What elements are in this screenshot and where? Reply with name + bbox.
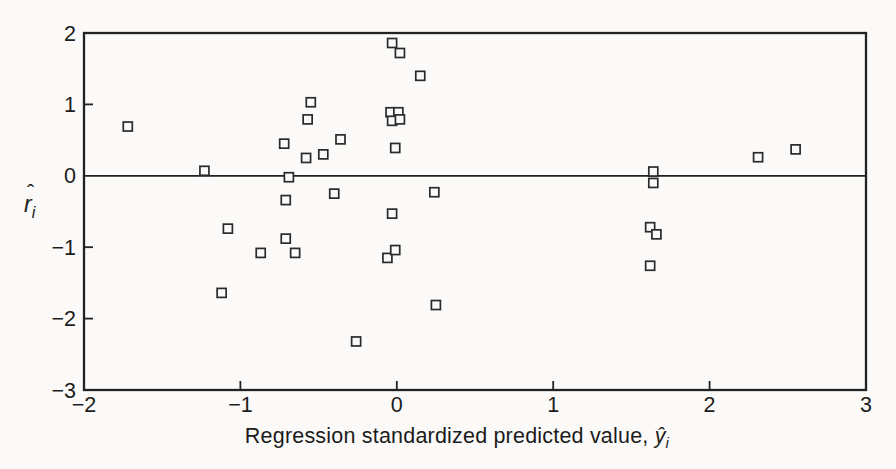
x-tick-label: 3: [860, 393, 872, 417]
plot-canvas: −2−10123210−1−2−3: [0, 0, 896, 469]
data-point-marker: [330, 189, 339, 198]
data-point-marker: [319, 150, 328, 159]
data-point-marker: [256, 248, 265, 257]
y-axis-label: ˆri: [24, 191, 35, 222]
hat-accent: ˆ: [27, 180, 34, 206]
data-point-marker: [649, 167, 658, 176]
x-axis-label-text: Regression standardized predicted value,: [245, 424, 655, 448]
x-tick-label: 1: [547, 393, 559, 417]
data-point-marker: [649, 178, 658, 187]
data-point-marker: [291, 248, 300, 257]
residual-scatter-plot-figure: −2−10123210−1−2−3 ˆri Regression standar…: [0, 0, 896, 469]
data-point-marker: [430, 188, 439, 197]
data-point-marker: [646, 261, 655, 270]
data-point-marker: [416, 71, 425, 80]
y-tick-label: 1: [64, 93, 76, 117]
y-tick-label: −3: [51, 379, 76, 403]
data-point-marker: [280, 139, 289, 148]
x-tick-label: 2: [704, 393, 716, 417]
data-point-marker: [754, 153, 763, 162]
data-point-marker: [123, 122, 132, 131]
y-axis-symbol: ˆri: [24, 191, 35, 222]
data-point-marker: [391, 143, 400, 152]
data-point-marker: [391, 246, 400, 255]
y-tick-label: −1: [51, 236, 76, 260]
data-point-marker: [395, 48, 404, 57]
data-point-marker: [431, 301, 440, 310]
data-point-marker: [281, 234, 290, 243]
data-point-marker: [303, 115, 312, 124]
y-tick-label: 0: [64, 164, 76, 188]
data-point-marker: [223, 224, 232, 233]
y-tick-label: 2: [64, 22, 76, 46]
data-point-marker: [200, 166, 209, 175]
data-point-marker: [352, 337, 361, 346]
x-tick-label: −1: [228, 393, 253, 417]
data-point-marker: [284, 173, 293, 182]
data-point-marker: [281, 196, 290, 205]
x-axis-label: Regression standardized predicted value,…: [18, 424, 896, 451]
x-axis-symbol: ŷi: [655, 424, 670, 448]
data-point-marker: [336, 135, 345, 144]
data-point-marker: [217, 288, 226, 297]
y-tick-label: −2: [51, 307, 76, 331]
data-point-marker: [791, 145, 800, 154]
data-point-marker: [306, 98, 315, 107]
plot-frame: [84, 33, 866, 390]
data-point-marker: [388, 209, 397, 218]
data-point-marker: [395, 115, 404, 124]
data-point-marker: [652, 230, 661, 239]
data-point-marker: [302, 153, 311, 162]
x-tick-label: 0: [391, 393, 403, 417]
data-point-marker: [388, 38, 397, 47]
